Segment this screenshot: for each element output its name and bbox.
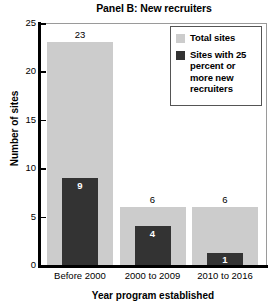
- x-category-label-before-2000: Before 2000: [40, 270, 120, 282]
- legend-entry-total-sites: Total sites: [176, 32, 256, 44]
- y-tick-mark-25: [41, 23, 46, 25]
- y-axis-line: [38, 22, 41, 267]
- x-axis-line: [38, 265, 268, 268]
- chart-panel-b: Panel B: New recruiters 25 20 15 10 5 0 …: [0, 0, 280, 308]
- y-tick-group-0: 0: [0, 260, 36, 270]
- legend-entry-subset-sites: Sites with 25 percent or more new recrui…: [176, 49, 256, 95]
- y-axis-title: Number of sites: [9, 59, 20, 199]
- y-tick-label-5: 5: [6, 212, 36, 222]
- legend-label-total-sites: Total sites: [190, 32, 235, 44]
- legend-swatch-subset-sites-icon: [176, 51, 185, 60]
- y-tick-mark-5: [41, 217, 46, 219]
- chart-title: Panel B: New recruiters: [40, 2, 268, 14]
- x-axis-title: Year program established: [38, 290, 268, 301]
- x-category-label-2010-2016: 2010 to 2016: [185, 270, 265, 282]
- y-tick-mark-15: [41, 120, 46, 122]
- chart-legend: Total sites Sites with 25 percent or mor…: [170, 26, 262, 106]
- y-tick-group-5: 5: [0, 212, 36, 222]
- y-tick-label-0: 0: [6, 260, 36, 270]
- legend-swatch-total-sites-icon: [176, 34, 185, 43]
- y-tick-mark-20: [41, 71, 46, 73]
- legend-label-subset-sites: Sites with 25 percent or more new recrui…: [190, 49, 256, 95]
- x-category-label-2000-2009: 2000 to 2009: [113, 270, 193, 282]
- y-tick-group-25: 25: [0, 18, 36, 28]
- y-tick-mark-10: [41, 168, 46, 170]
- y-tick-label-25: 25: [6, 18, 36, 28]
